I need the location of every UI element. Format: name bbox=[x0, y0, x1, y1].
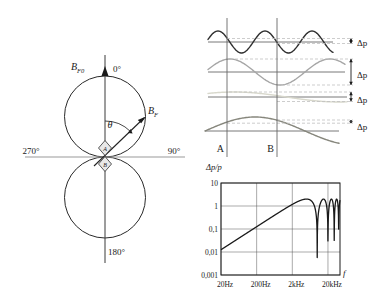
y-tick-label: 0,01 bbox=[205, 248, 218, 257]
point-b-label: B bbox=[267, 143, 274, 154]
angle-0-label: 0° bbox=[113, 64, 122, 74]
delta-p-response-curve bbox=[221, 199, 340, 257]
response-curve bbox=[221, 199, 340, 257]
frequency-response-chart: 1010,10,010,001 20Hz200Hz2kHz20kHz Δp/p … bbox=[189, 160, 378, 305]
y-axis-title: Δp/p bbox=[205, 162, 222, 172]
delta-p-label: Δp bbox=[357, 95, 368, 105]
angle-180-label: 180° bbox=[108, 247, 126, 257]
x-tick-label: 20Hz bbox=[217, 280, 234, 289]
point-a-label: A bbox=[217, 143, 225, 154]
delta-p-arrow-down-icon bbox=[349, 82, 353, 85]
y-tick-label: 0,1 bbox=[209, 225, 219, 234]
pressure-difference-waves-panel: ΔpΔpΔpΔp A B bbox=[189, 0, 378, 160]
y-tick-label: 1 bbox=[214, 202, 218, 211]
bf-vector-label: BF bbox=[148, 105, 159, 118]
x-tick-label: 200Hz bbox=[251, 280, 272, 289]
delta-p-label: Δp bbox=[357, 122, 368, 132]
theta-label: θ bbox=[108, 119, 113, 130]
y-tick-label: 0,001 bbox=[201, 271, 218, 280]
mic-back-label: B bbox=[103, 162, 107, 168]
delta-p-label: Δp bbox=[357, 38, 368, 48]
angle-90-label: 90° bbox=[168, 146, 181, 156]
x-axis-tick-labels: 20Hz200Hz2kHz20kHz bbox=[217, 280, 343, 289]
delta-p-label: Δp bbox=[357, 70, 368, 80]
y-axis-tick-labels: 1010,10,010,001 bbox=[201, 179, 218, 280]
delta-p-arrow-up-icon bbox=[349, 92, 353, 95]
x-tick-label: 2kHz bbox=[288, 280, 305, 289]
delta-p-arrow-up-icon bbox=[349, 59, 353, 62]
mic-front-label: A bbox=[102, 146, 107, 152]
polar-pattern-diagram: A B BF0 0° 270° 90° 180° θ BF bbox=[0, 0, 189, 305]
x-tick-label: 20kHz bbox=[322, 280, 343, 289]
chart-grid bbox=[221, 183, 340, 275]
x-axis-title: f bbox=[343, 268, 347, 278]
y-tick-label: 10 bbox=[211, 179, 219, 188]
low-frequency-wave bbox=[205, 117, 339, 143]
axis-vector-label: BF0 bbox=[71, 61, 85, 74]
up-arrowhead-icon bbox=[102, 66, 109, 76]
figure-pressure-gradient-microphone: A B BF0 0° 270° 90° 180° θ BF ΔpΔpΔpΔp A… bbox=[0, 0, 378, 305]
angle-270-label: 270° bbox=[22, 146, 40, 156]
delta-p-arrow-down-icon bbox=[349, 98, 353, 101]
